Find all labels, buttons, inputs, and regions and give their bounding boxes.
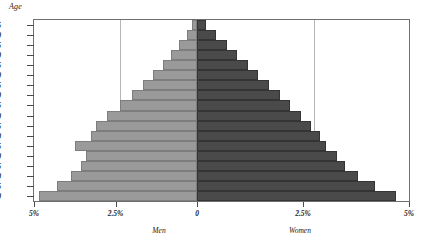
- bar-row: [34, 20, 409, 30]
- x-axis-tick-label: 2.5%: [295, 209, 311, 218]
- bar-row: [34, 141, 409, 151]
- y-axis-tick-label: 0: [0, 191, 1, 200]
- bar-women: [197, 80, 269, 90]
- y-axis-tick: [27, 116, 34, 117]
- bar-men: [179, 40, 197, 50]
- bar-women: [197, 131, 320, 141]
- y-axis-tick: [27, 25, 34, 26]
- bar-row: [34, 30, 409, 40]
- y-axis-tick-label: 70: [0, 51, 1, 60]
- bar-men: [91, 131, 197, 141]
- x-axis-tick-label: 5%: [404, 209, 414, 218]
- bar-men: [132, 90, 197, 100]
- bar-men: [153, 70, 197, 80]
- y-axis-tick-label: 75: [0, 41, 1, 50]
- y-axis-tick-label: 45: [0, 101, 1, 110]
- y-axis-tick: [27, 166, 34, 167]
- x-axis-tick: [116, 202, 117, 207]
- bar-row: [34, 131, 409, 141]
- plot-area: [33, 19, 410, 202]
- bar-women: [197, 171, 358, 181]
- bar-women: [197, 121, 311, 131]
- bar-men: [143, 80, 197, 90]
- y-axis-tick-label: 20: [0, 151, 1, 160]
- bar-women: [197, 20, 206, 30]
- y-axis-tick: [27, 65, 34, 66]
- y-axis-tick-label: 5: [0, 181, 1, 190]
- y-axis-tick: [27, 85, 34, 86]
- bar-row: [34, 181, 409, 191]
- bar-row: [34, 121, 409, 131]
- bar-row: [34, 90, 409, 100]
- bar-men: [107, 111, 197, 121]
- y-axis-tick-label: 85: [0, 21, 1, 30]
- bar-men: [187, 30, 197, 40]
- bar-men: [163, 60, 197, 70]
- y-axis-tick: [27, 35, 34, 36]
- bar-women: [197, 70, 258, 80]
- bar-women: [197, 60, 248, 70]
- bar-men: [71, 171, 197, 181]
- bar-women: [197, 181, 375, 191]
- bar-row: [34, 171, 409, 181]
- bar-women: [197, 161, 345, 171]
- x-axis-tick-label: 5%: [29, 209, 39, 218]
- x-axis-tick: [197, 202, 198, 207]
- bar-women: [197, 100, 290, 110]
- y-axis-tick: [27, 95, 34, 96]
- bar-women: [197, 191, 396, 201]
- y-axis-tick-label: 60: [0, 71, 1, 80]
- bar-women: [197, 40, 227, 50]
- bar-row: [34, 80, 409, 90]
- y-axis-tick-label: 55: [0, 81, 1, 90]
- y-axis-tick: [27, 105, 34, 106]
- x-axis-tick-label: 0: [195, 209, 199, 218]
- series-caption-men: Men: [152, 226, 165, 235]
- x-axis-tick: [34, 202, 35, 207]
- y-axis-tick: [27, 176, 34, 177]
- bar-men: [39, 191, 197, 201]
- bar-row: [34, 50, 409, 60]
- y-axis-tick-label: 80: [0, 31, 1, 40]
- y-axis-tick-label: 10: [0, 171, 1, 180]
- bar-row: [34, 161, 409, 171]
- y-axis-tick: [27, 55, 34, 56]
- bar-rows: [34, 20, 409, 201]
- bar-men: [81, 161, 197, 171]
- y-axis-tick-label: 30: [0, 131, 1, 140]
- population-pyramid-chart: Age 0510152025303540455055606570758085 5…: [0, 0, 425, 247]
- bar-row: [34, 100, 409, 110]
- bar-row: [34, 151, 409, 161]
- bar-men: [171, 50, 197, 60]
- y-axis-tick: [27, 45, 34, 46]
- y-axis-tick: [27, 196, 34, 197]
- bar-women: [197, 50, 237, 60]
- y-axis-tick-label: 35: [0, 121, 1, 130]
- y-axis-tick-label: 50: [0, 91, 1, 100]
- y-axis-tick: [27, 146, 34, 147]
- y-axis-tick: [27, 75, 34, 76]
- bar-men: [86, 151, 197, 161]
- y-axis-tick: [27, 186, 34, 187]
- y-axis-tick: [27, 136, 34, 137]
- x-axis-tick: [409, 202, 410, 207]
- y-axis-tick-label: 65: [0, 61, 1, 70]
- bar-women: [197, 30, 216, 40]
- x-axis-tick: [303, 202, 304, 207]
- bar-women: [197, 141, 326, 151]
- bar-row: [34, 111, 409, 121]
- bar-row: [34, 40, 409, 50]
- bar-women: [197, 151, 337, 161]
- bar-women: [197, 111, 301, 121]
- bar-men: [57, 181, 197, 191]
- y-axis-tick-label: 25: [0, 141, 1, 150]
- bar-women: [197, 90, 280, 100]
- y-axis-tick-label: 40: [0, 111, 1, 120]
- bar-men: [75, 141, 197, 151]
- x-axis-tick-label: 2.5%: [108, 209, 124, 218]
- bar-row: [34, 191, 409, 201]
- y-axis-tick: [27, 156, 34, 157]
- bar-row: [34, 60, 409, 70]
- y-axis-tick: [27, 126, 34, 127]
- bar-men: [120, 100, 197, 110]
